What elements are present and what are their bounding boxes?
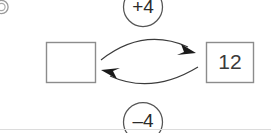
right-value-text: 12 [218, 50, 241, 73]
diagram-canvas: 12 +4 –4 [0, 0, 271, 133]
corner-marker-icon [0, 0, 8, 13]
operation-subtract-label: –4 [132, 110, 154, 131]
left-value-box[interactable] [47, 43, 96, 83]
operation-badge-subtract[interactable]: –4 [124, 103, 163, 134]
operation-badge-add[interactable]: +4 [124, 0, 163, 27]
right-value-box[interactable]: 12 [207, 43, 254, 83]
inverse-operations-diagram: 12 +4 –4 [0, 0, 271, 133]
operation-add-label: +4 [132, 0, 154, 17]
arrow-minus-bottom [101, 67, 198, 84]
arrow-plus-top [101, 39, 196, 60]
